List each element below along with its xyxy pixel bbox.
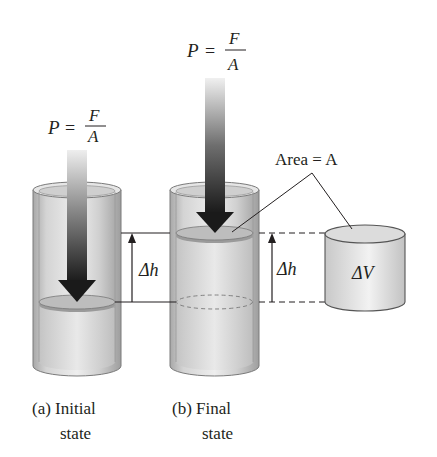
cylinder-initial xyxy=(33,150,121,376)
caption-final-line2: state xyxy=(202,424,233,443)
pressure-formula-initial: P = F A xyxy=(47,106,106,146)
delta-h-label-final: Δh xyxy=(276,259,297,279)
svg-text:A: A xyxy=(87,127,99,146)
caption-initial-line2: state xyxy=(60,424,91,443)
delta-v-label: ΔV xyxy=(351,263,376,283)
caption-final-line1: (b) Final xyxy=(172,399,231,418)
svg-text:P: P xyxy=(47,117,60,138)
piston-work-diagram: P = F A P = F A Area = A Δh Δh ΔV (a) In… xyxy=(0,0,437,457)
svg-text:F: F xyxy=(88,106,100,125)
cylinder-final xyxy=(170,78,259,376)
svg-text:A: A xyxy=(227,55,239,74)
delta-h-label-initial: Δh xyxy=(138,260,159,280)
area-label: Area = A xyxy=(275,150,338,169)
caption-initial-line1: (a) Initial xyxy=(32,399,96,418)
svg-text:F: F xyxy=(228,29,240,48)
svg-text:=: = xyxy=(65,118,75,138)
pressure-formula-final: P = F A xyxy=(186,29,246,74)
svg-text:P: P xyxy=(186,40,199,61)
svg-text:=: = xyxy=(205,41,215,61)
